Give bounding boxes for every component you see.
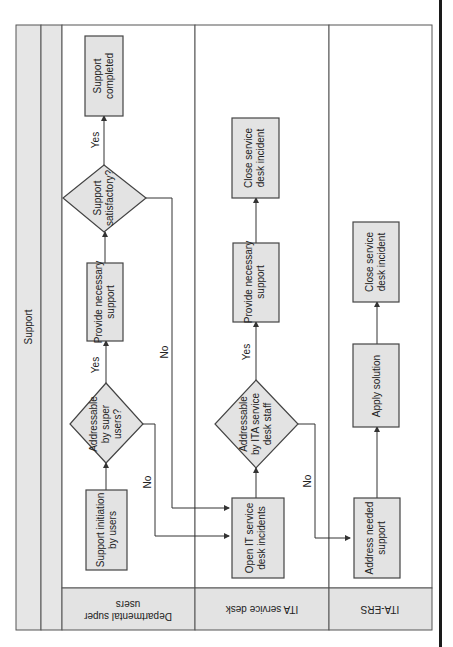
pool-title: Support [23,309,34,344]
lane-label-ita-service-desk: ITA service desk [225,604,299,615]
svg-text:Open IT service: Open IT service [244,502,255,573]
svg-text:support: support [105,285,116,319]
svg-text:Address needed: Address needed [364,502,375,575]
svg-text:Apply solution: Apply solution [371,355,382,417]
svg-text:Support: Support [92,58,103,93]
node-close-incident-2: Close service desk incident [353,222,399,302]
page-edge-bar [439,0,442,647]
edge-label-no-1: No [142,475,153,488]
svg-text:Close service: Close service [243,128,254,188]
node-support-initiation: Support initiation by users [86,490,127,570]
edge-label-yes-2: Yes [90,132,101,148]
svg-text:desk incidents: desk incidents [256,506,267,569]
edge-label-yes-3: Yes [241,344,252,360]
svg-text:Support initiation: Support initiation [95,493,106,568]
lane-label-ita-ers: ITA-ERS [360,604,399,615]
node-address-needed-support: Address needed support [354,498,400,578]
edge-label-no-2: No [159,345,170,358]
svg-text:satisfactory?: satisfactory? [104,169,115,226]
svg-text:Provide necessary: Provide necessary [93,261,104,343]
node-support-completed: Support completed [85,36,123,116]
edge-label-yes-1: Yes [90,357,101,373]
svg-text:by ITA service: by ITA service [250,393,261,455]
svg-text:Support: Support [92,180,103,215]
lane-label-departmental-2: users [116,599,140,610]
svg-text:desk incident: desk incident [376,233,387,292]
node-provide-support-1: Provide necessary support [87,261,123,343]
node-open-incidents: Open IT service desk incidents [232,498,284,578]
svg-text:Provide necessary: Provide necessary [243,241,254,323]
svg-text:by super: by super [100,404,111,443]
edge-label-no-3: No [302,474,313,487]
svg-text:support: support [255,265,266,299]
svg-text:desk staff: desk staff [262,402,273,445]
svg-text:Addressable: Addressable [238,396,249,452]
svg-text:support: support [376,521,387,555]
svg-text:users?: users? [112,409,123,439]
svg-text:Close service: Close service [364,232,375,292]
pool-subband [41,25,62,630]
svg-text:desk incident: desk incident [255,129,266,188]
lane-departmental [62,25,195,588]
node-provide-support-2: Provide necessary support [233,241,279,323]
svg-text:by users: by users [107,511,118,549]
swimlane-diagram: Support Departmental super users ITA ser… [0,0,453,647]
node-close-incident-1: Close service desk incident [232,118,279,198]
lane-label-departmental-1: Departmental super [83,611,171,622]
node-apply-solution: Apply solution [353,344,399,427]
svg-text:completed: completed [104,53,115,99]
svg-text:Addressable: Addressable [88,396,99,452]
